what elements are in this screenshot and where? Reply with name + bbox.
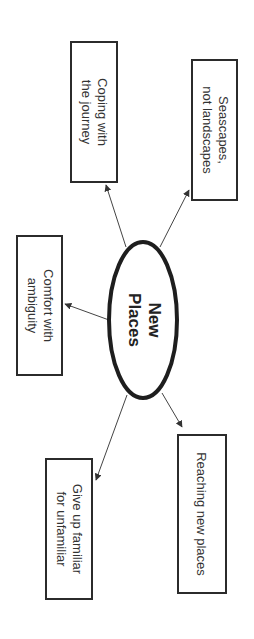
center-node: New Places (109, 242, 177, 398)
node-coping: Coping with the journey (71, 42, 117, 182)
node-coping-line1: Coping with (95, 78, 110, 146)
connector-giveup (96, 395, 127, 480)
node-seascapes-line1: Seascapes, (216, 96, 231, 164)
node-giveup: Give up familiar for unfamiliar (46, 459, 92, 599)
node-giveup-line2: for unfamiliar (54, 491, 69, 567)
connector-reaching (162, 393, 182, 427)
node-giveup-line1: Give up familiar (70, 484, 85, 575)
center-label-line2: Places (125, 293, 144, 347)
node-comfort: Comfort with ambiguity (17, 236, 62, 375)
center-label-line1: New (145, 303, 164, 339)
node-reaching-line1: Reaching new places (194, 452, 209, 576)
connector-comfort (65, 304, 109, 320)
node-coping-line2: the journey (79, 80, 94, 145)
mind-map-diagram: New Places Coping with the journey Seasc… (0, 0, 254, 639)
connector-coping (106, 185, 126, 247)
node-reaching: Reaching new places (178, 435, 226, 593)
node-seascapes-line2: not landscapes (200, 86, 215, 174)
node-seascapes: Seascapes, not landscapes (192, 60, 237, 200)
node-comfort-line1: Comfort with (41, 269, 56, 342)
connector-seascapes (160, 190, 189, 247)
node-comfort-line2: ambiguity (25, 278, 40, 334)
